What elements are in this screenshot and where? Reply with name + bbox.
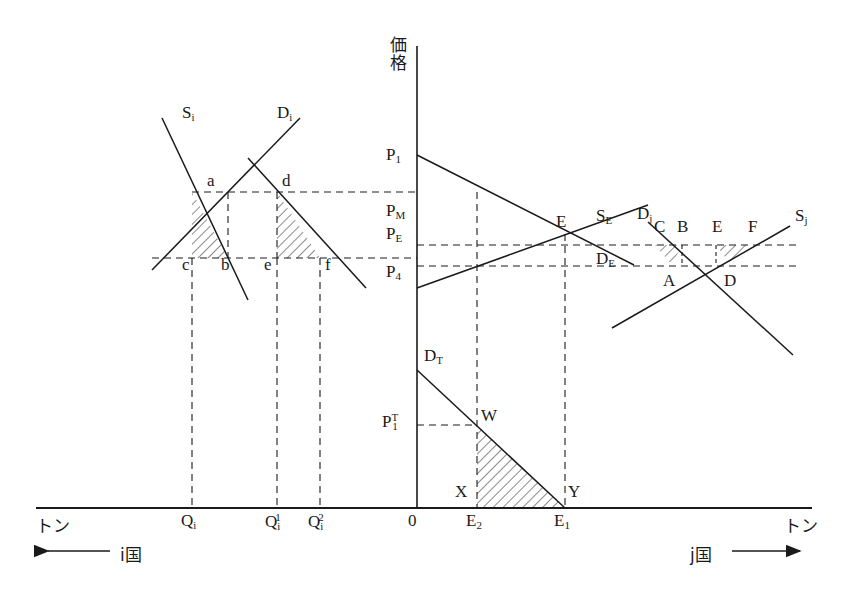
point-label-a: a xyxy=(207,172,215,189)
quantity-tick-E1: E1 xyxy=(554,512,570,531)
price-tick-P1: P1 xyxy=(386,146,401,165)
trade-diagram-svg xyxy=(0,0,848,597)
point-label-F: F xyxy=(748,218,757,235)
shaded-triangle-acb xyxy=(192,192,228,258)
price-tick-P4: P4 xyxy=(386,263,401,282)
shaded-triangle-efd xyxy=(716,245,755,265)
point-label-b: b xyxy=(221,256,230,273)
point-label-E-j: E xyxy=(712,218,722,235)
country-label-i: i国 xyxy=(120,541,142,566)
curve-label-Di: Di xyxy=(277,104,292,123)
point-label-D: D xyxy=(724,272,736,289)
origin-label: 0 xyxy=(408,512,417,529)
curve-label-Dj: Dj xyxy=(637,205,652,224)
point-label-X: X xyxy=(455,483,467,500)
price-tick-PE: PE xyxy=(386,225,402,244)
point-label-f: f xyxy=(325,256,331,273)
point-label-C: C xyxy=(654,218,665,235)
curve-label-DT: DT xyxy=(424,347,443,366)
shaded-triangle-def xyxy=(277,192,320,258)
point-label-e: e xyxy=(264,256,272,273)
curve-Sj xyxy=(612,226,790,328)
quantity-tick-Qi2: Qi2 xyxy=(308,512,324,532)
point-label-d: d xyxy=(282,172,291,189)
curve-label-Si: Si xyxy=(182,104,195,123)
point-label-E: E xyxy=(556,213,566,230)
point-label-B: B xyxy=(677,218,688,235)
curve-label-SE: SE xyxy=(596,207,612,226)
curve-SE xyxy=(417,205,648,288)
point-label-c: c xyxy=(182,256,190,273)
curve-label-Sj: Sj xyxy=(795,207,808,226)
point-label-A: A xyxy=(663,272,675,289)
unit-label-right: トン xyxy=(784,512,818,537)
curve-label-DE: DE xyxy=(596,250,615,269)
country-label-j: j国 xyxy=(690,541,712,566)
price-axis-label: 価格 xyxy=(388,36,406,72)
unit-label-left: トン xyxy=(36,512,70,537)
quantity-tick-Qi: Qi xyxy=(181,512,196,531)
point-label-Y: Y xyxy=(568,483,580,500)
figure-canvas: 価格 P1 PM PE P4 PT1 0 トン トン Qi Qi1 Qi2 E2… xyxy=(0,0,848,597)
price-tick-P1T: PT1 xyxy=(382,412,398,432)
point-label-W: W xyxy=(481,407,497,424)
quantity-tick-E2: E2 xyxy=(466,512,482,531)
curve-Si xyxy=(162,118,248,300)
price-tick-PM: PM xyxy=(386,202,405,221)
quantity-tick-Qi1: Qi1 xyxy=(265,512,281,532)
shaded-triangle-cba xyxy=(655,245,682,265)
